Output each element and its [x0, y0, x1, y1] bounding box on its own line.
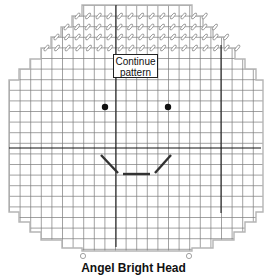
callout-line-2: pattern: [114, 67, 157, 78]
head-pattern-chart: [0, 0, 267, 278]
pattern-grid: [0, 0, 267, 260]
edge-markers: [80, 253, 191, 258]
callout-line-1: Continue: [114, 56, 157, 67]
continue-pattern-callout: Continue pattern: [113, 54, 158, 78]
diagram-title: Angel Bright Head: [0, 261, 267, 275]
center-lines: [9, 5, 261, 247]
face-features: [101, 104, 171, 174]
eye-dot: [165, 104, 171, 110]
head-outline: [9, 5, 263, 251]
marker-circle: [80, 253, 85, 258]
eye-dot: [102, 104, 108, 110]
marker-circle: [186, 253, 191, 258]
